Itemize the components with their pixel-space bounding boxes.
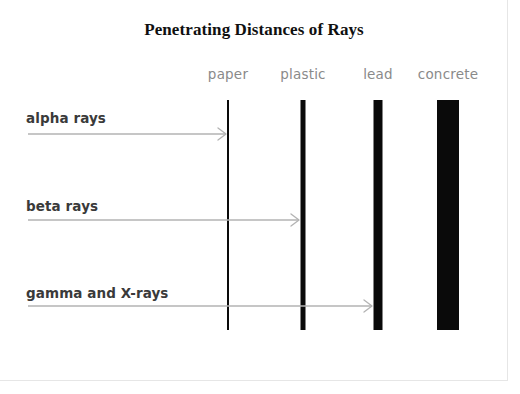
ray-arrow-gamma xyxy=(28,300,372,312)
ray-arrow-alpha xyxy=(28,128,226,140)
ray-arrows-layer xyxy=(0,0,520,394)
penetrating-distances-diagram: Penetrating Distances of Rays paper plas… xyxy=(0,0,520,394)
diagram-page: Penetrating Distances of Rays paper plas… xyxy=(0,0,520,394)
ray-arrow-beta xyxy=(28,214,299,226)
